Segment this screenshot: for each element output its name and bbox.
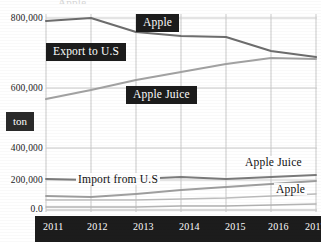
label-apple-export: Apple bbox=[136, 14, 179, 32]
x-tick-2015: 2015 bbox=[225, 221, 246, 232]
x-tick-2017: 2017* bbox=[305, 221, 321, 232]
x-tick-2016: 2016 bbox=[268, 221, 289, 232]
x-tick-2012: 2012 bbox=[87, 221, 108, 232]
unit-label-ton: ton bbox=[6, 112, 34, 131]
x-tick-2011: 2011 bbox=[43, 221, 63, 232]
label-apple-juice-export: Apple Juice bbox=[126, 86, 197, 104]
plot-area bbox=[0, 0, 321, 242]
x-tick-2013: 2013 bbox=[133, 221, 154, 232]
x-tick-2014: 2014 bbox=[179, 221, 200, 232]
x-axis: 2011 2012 2013 2014 2015 2016 2017* bbox=[35, 216, 321, 242]
label-apple-import: Apple bbox=[274, 183, 307, 195]
label-export-to-us: Export to U.S bbox=[46, 43, 126, 61]
label-import-from-us: Import from U.S bbox=[76, 173, 160, 185]
label-apple-juice-import: Apple Juice bbox=[243, 156, 304, 168]
apple-trade-line-chart: Apple 800,000 600,000 400,000 200,000 0.… bbox=[0, 0, 321, 242]
